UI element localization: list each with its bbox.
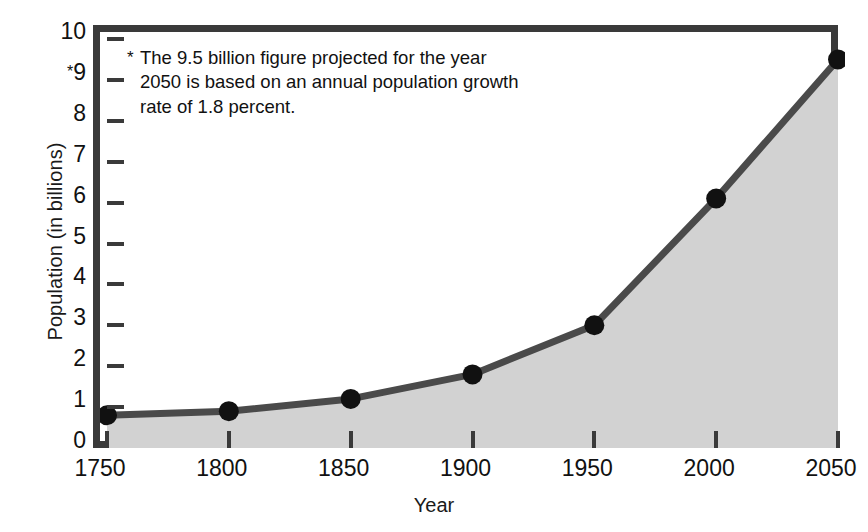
y-tick-label-9: *9 xyxy=(40,61,86,84)
data-point-1850 xyxy=(341,389,361,409)
y-tick-label-3: 3 xyxy=(40,306,86,329)
y-tick-value: 10 xyxy=(60,18,86,44)
y-tick-value: 8 xyxy=(73,100,86,126)
x-tick-label-1750: 1750 xyxy=(40,455,160,482)
y-tick-mark-9 xyxy=(107,78,124,82)
y-tick-label-1: 1 xyxy=(40,388,86,411)
x-axis-tick-labels: 1750180018501900195020002050 xyxy=(0,455,868,487)
y-tick-label-10: 10 xyxy=(40,20,86,43)
y-tick-value: 7 xyxy=(73,141,86,167)
y-tick-mark-10 xyxy=(107,37,124,41)
y-tick-label-4: 4 xyxy=(40,265,86,288)
y-tick-value: 5 xyxy=(73,223,86,249)
y-tick-label-5: 5 xyxy=(40,225,86,248)
x-tick-mark-1800 xyxy=(227,431,231,448)
x-tick-label-2000: 2000 xyxy=(649,455,769,482)
plot-inner: * The 9.5 billion figure projected for t… xyxy=(100,32,845,455)
y-tick-value: 2 xyxy=(73,345,86,371)
y-tick-label-7: 7 xyxy=(40,143,86,166)
x-tick-mark-2000 xyxy=(714,431,718,448)
y-tick-mark-4 xyxy=(107,282,124,286)
x-tick-mark-1950 xyxy=(592,431,596,448)
y-tick-value: 4 xyxy=(73,263,86,289)
x-tick-mark-1750 xyxy=(105,431,109,448)
data-point-2000 xyxy=(706,189,726,209)
footnote-text: The 9.5 billion figure projected for the… xyxy=(140,46,520,119)
y-tick-value: 3 xyxy=(73,304,86,330)
x-tick-mark-1850 xyxy=(349,431,353,448)
plot-area: * The 9.5 billion figure projected for t… xyxy=(93,25,838,448)
x-tick-mark-2050 xyxy=(836,431,840,448)
y-tick-value: 1 xyxy=(73,386,86,412)
y-tick-mark-6 xyxy=(107,201,124,205)
x-tick-label-1850: 1850 xyxy=(284,455,404,482)
y-tick-label-6: 6 xyxy=(40,184,86,207)
y-tick-mark-2 xyxy=(107,364,124,368)
y-tick-mark-5 xyxy=(107,242,124,246)
x-tick-label-2050: 2050 xyxy=(771,455,868,482)
y-tick-label-2: 2 xyxy=(40,347,86,370)
population-growth-chart: Population (in billions) 10*9876543210 1… xyxy=(0,0,868,532)
y-tick-mark-1 xyxy=(107,405,124,409)
y-tick-label-8: 8 xyxy=(40,102,86,125)
data-point-1950 xyxy=(584,315,604,335)
y-tick-value: 6 xyxy=(73,182,86,208)
y-tick-value: 9 xyxy=(73,59,86,85)
y-axis-tick-labels: 10*9876543210 xyxy=(24,0,86,532)
y-tick-label-0: 0 xyxy=(40,429,86,452)
y-tick-mark-8 xyxy=(107,119,124,123)
data-point-1900 xyxy=(463,364,483,384)
x-axis-title: Year xyxy=(0,494,868,517)
data-point-1800 xyxy=(219,401,239,421)
x-tick-mark-1900 xyxy=(471,431,475,448)
chart-footnote: * The 9.5 billion figure projected for t… xyxy=(140,46,520,119)
y-tick-value: 0 xyxy=(73,427,86,453)
y-tick-mark-3 xyxy=(107,323,124,327)
y-tick-mark-7 xyxy=(107,160,124,164)
x-tick-label-1900: 1900 xyxy=(406,455,526,482)
x-tick-label-1800: 1800 xyxy=(162,455,282,482)
footnote-asterisk: * xyxy=(127,47,134,69)
x-tick-label-1950: 1950 xyxy=(527,455,647,482)
